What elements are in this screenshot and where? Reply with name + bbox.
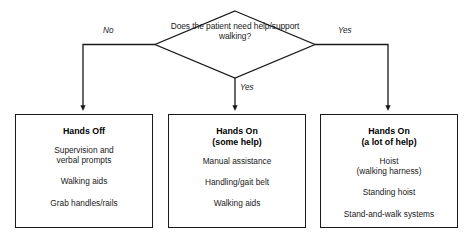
outcome-title: Hands Off (63, 126, 105, 137)
connector-no-left (83, 45, 155, 109)
outcome-title: Hands On (a lot of help) (361, 126, 416, 148)
outcome-item-list: Hoist (walking harness) Standing hoist S… (321, 156, 457, 219)
flowchart-canvas: Does the patient need help/support walki… (0, 0, 471, 238)
outcome-item: Walking aids (61, 176, 108, 186)
outcome-box-hands-on-alot: Hands On (a lot of help) Hoist (walking … (320, 114, 458, 228)
outcome-title: Hands On (some help) (212, 126, 261, 148)
outcome-item-list: Manual assistance Handling/gait belt Wal… (169, 156, 305, 209)
edge-label-yes-right: Yes (338, 26, 352, 35)
outcome-item: Hoist (walking harness) (356, 156, 421, 176)
outcome-box-hands-on-some: Hands On (some help) Manual assistance H… (168, 114, 306, 228)
outcome-item: Handling/gait belt (205, 177, 269, 187)
outcome-item: Supervision and verbal prompts (54, 145, 114, 165)
outcome-item: Standing hoist (363, 187, 416, 197)
outcome-item: Grab handles/rails (50, 198, 117, 208)
decision-question: Does the patient need help/support walki… (163, 21, 307, 42)
connector-yes-right (315, 45, 388, 109)
outcome-item: Stand-and-walk systems (344, 209, 434, 219)
outcome-item: Manual assistance (203, 156, 272, 166)
outcome-item-list: Supervision and verbal prompts Walking a… (16, 145, 152, 208)
outcome-item: Walking aids (214, 198, 261, 208)
edge-label-no: No (103, 26, 113, 35)
edge-label-yes-middle: Yes (240, 83, 254, 92)
outcome-box-hands-off: Hands Off Supervision and verbal prompts… (15, 114, 153, 228)
